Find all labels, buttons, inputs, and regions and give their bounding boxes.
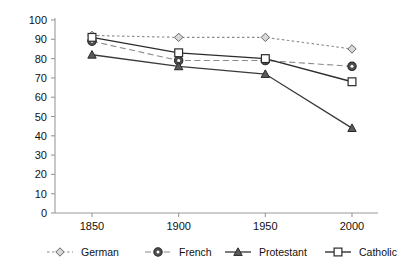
y-axis-tick-label: 60 bbox=[35, 91, 47, 103]
series-protestant bbox=[88, 51, 356, 132]
marker-open-square bbox=[348, 78, 356, 86]
y-axis-tick-label: 40 bbox=[35, 130, 47, 142]
legend-label: Protestant bbox=[259, 246, 307, 258]
x-axis-tick-label: 1950 bbox=[253, 220, 277, 232]
legend-item-catholic[interactable]: Catholic bbox=[325, 246, 397, 258]
series-line bbox=[92, 35, 352, 49]
x-axis-tick-label: 2000 bbox=[340, 220, 364, 232]
y-axis: 0102030405060708090100 bbox=[29, 14, 55, 219]
y-axis-tick-label: 20 bbox=[35, 168, 47, 180]
marker-open-diamond bbox=[348, 45, 356, 53]
data-series-group bbox=[88, 31, 356, 131]
marker-circle-inner bbox=[157, 251, 160, 254]
series-german bbox=[88, 31, 356, 53]
marker-circle-inner bbox=[351, 65, 354, 68]
x-axis-tick-label: 1850 bbox=[80, 220, 104, 232]
marker-open-square bbox=[175, 49, 183, 57]
x-axis-tick-label: 1900 bbox=[166, 220, 190, 232]
chart-canvas: 0102030405060708090100 1850190019502000 … bbox=[0, 0, 420, 273]
marker-filled-triangle bbox=[348, 124, 356, 132]
y-axis-tick-label: 70 bbox=[35, 72, 47, 84]
marker-open-square bbox=[334, 248, 342, 256]
marker-filled-circle bbox=[154, 248, 162, 256]
x-axis: 1850190019502000 bbox=[55, 213, 378, 232]
y-axis-tick-label: 30 bbox=[35, 149, 47, 161]
marker-open-diamond bbox=[174, 33, 182, 41]
series-french bbox=[88, 37, 356, 70]
y-axis-tick-label: 0 bbox=[41, 207, 47, 219]
legend-item-german[interactable]: German bbox=[47, 246, 119, 258]
y-axis-tick-label: 10 bbox=[35, 188, 47, 200]
legend-label: German bbox=[81, 246, 119, 258]
marker-open-square bbox=[88, 33, 96, 41]
marker-open-square bbox=[261, 55, 269, 63]
marker-filled-circle bbox=[348, 62, 356, 70]
legend-label: Catholic bbox=[359, 246, 397, 258]
y-axis-tick-label: 80 bbox=[35, 53, 47, 65]
marker-open-diamond bbox=[56, 248, 64, 256]
marker-filled-triangle bbox=[88, 51, 96, 59]
legend-label: French bbox=[179, 246, 212, 258]
y-axis-tick-label: 50 bbox=[35, 111, 47, 123]
line-chart: 0102030405060708090100 1850190019502000 … bbox=[0, 0, 420, 273]
y-axis-tick-label: 100 bbox=[29, 14, 47, 26]
y-axis-tick-label: 90 bbox=[35, 33, 47, 45]
legend-item-protestant[interactable]: Protestant bbox=[225, 246, 307, 258]
legend-item-french[interactable]: French bbox=[145, 246, 212, 258]
series-line bbox=[92, 55, 352, 128]
marker-open-diamond bbox=[261, 33, 269, 41]
chart-legend: GermanFrenchProtestantCatholic bbox=[47, 246, 397, 258]
